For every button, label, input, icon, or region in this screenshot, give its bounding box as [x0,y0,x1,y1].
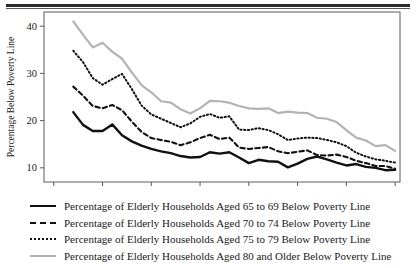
legend-item[interactable]: Percentage of Elderly Households Aged 80… [30,248,416,265]
y-tick-label: 40 [27,21,38,32]
x-tick-label: 1990 [287,189,308,190]
x-axis-ticks: 19651970197519801985199019952000 [43,182,405,190]
legend-item-label: Percentage of Elderly Households Aged 80… [64,250,391,262]
legend-item[interactable]: Percentage of Elderly Households Aged 65… [30,198,416,215]
top-rule-thin [6,8,410,9]
y-tick-label: 10 [27,162,38,173]
legend-item-label: Percentage of Elderly Households Aged 70… [64,217,370,229]
x-tick-label: 1995 [336,189,357,190]
dotted-black-line-swatch-icon [30,233,56,245]
y-axis-ticks: 10203040 [27,21,45,174]
series-line-2 [73,51,395,163]
top-rule-thick [6,4,410,7]
data-series-group [73,21,395,170]
x-tick-label: 1975 [141,189,162,190]
solid-black-line-swatch-icon [30,200,56,212]
line-chart: Percentage Below Poverty Line 10203040 1… [0,10,416,190]
legend-item[interactable]: Percentage of Elderly Households Aged 75… [30,231,416,248]
y-tick-label: 30 [27,68,38,79]
series-line-0 [73,112,395,170]
figure-container: Percentage Below Poverty Line 10203040 1… [0,0,416,268]
dashed-black-line-swatch-icon [30,217,56,229]
y-axis-title: Percentage Below Poverty Line [6,37,16,158]
plot-area: Percentage Below Poverty Line 10203040 1… [0,10,416,190]
y-tick-label: 20 [27,115,38,126]
legend-item-label: Percentage of Elderly Households Aged 65… [64,200,370,212]
x-tick-label: 2000 [385,189,406,190]
x-tick-label: 1985 [238,189,259,190]
x-tick-label: 1970 [92,189,113,190]
legend-item[interactable]: Percentage of Elderly Households Aged 70… [30,215,416,232]
y-axis-label: Percentage Below Poverty Line [6,37,16,158]
x-tick-label: 1980 [190,189,211,190]
x-tick-label: 1965 [43,189,64,190]
chart-legend: Percentage of Elderly Households Aged 65… [0,198,416,268]
legend-item-label: Percentage of Elderly Households Aged 75… [64,233,370,245]
solid-gray-line-swatch-icon [30,250,56,262]
series-line-1 [73,87,395,169]
series-line-3 [73,21,395,150]
